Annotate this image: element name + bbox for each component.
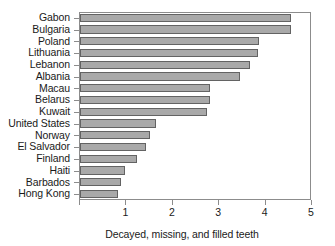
bar-row bbox=[79, 118, 311, 130]
bar-row bbox=[79, 130, 311, 142]
bar bbox=[80, 108, 207, 116]
bar bbox=[80, 72, 240, 80]
bar bbox=[80, 37, 259, 45]
bar-row bbox=[79, 153, 311, 165]
y-axis-label-haiti: Haiti bbox=[49, 165, 70, 177]
bar bbox=[80, 96, 210, 104]
bar-series-container bbox=[79, 12, 311, 200]
bar bbox=[80, 61, 250, 69]
x-axis-tick-label: 4 bbox=[255, 206, 275, 218]
bar-row bbox=[79, 106, 311, 118]
bar-row bbox=[79, 71, 311, 83]
x-axis-tick bbox=[218, 200, 219, 205]
y-axis-label-hong-kong: Hong Kong bbox=[18, 188, 70, 200]
bar bbox=[80, 84, 210, 92]
bar bbox=[80, 25, 291, 33]
x-axis-origin-tick bbox=[79, 200, 80, 205]
y-axis-label-gabon: Gabon bbox=[39, 12, 70, 24]
bar-row bbox=[79, 177, 311, 189]
x-axis-title-text: Decayed, missing, and filled teeth bbox=[105, 228, 259, 240]
bar-row bbox=[79, 165, 311, 177]
bar-row bbox=[79, 24, 311, 36]
bar bbox=[80, 190, 118, 198]
bar-row bbox=[79, 59, 311, 71]
y-axis-label-bulgaria: Bulgaria bbox=[32, 24, 70, 36]
x-axis-title: Decayed, missing, and filled teeth bbox=[0, 228, 335, 240]
bar-row bbox=[79, 188, 311, 200]
x-axis-tick-label: 2 bbox=[162, 206, 182, 218]
bar bbox=[80, 143, 146, 151]
bar bbox=[80, 155, 137, 163]
bar-row bbox=[79, 83, 311, 95]
x-axis-tick bbox=[125, 200, 126, 205]
bar bbox=[80, 49, 258, 57]
x-axis-tick bbox=[311, 200, 312, 205]
x-axis-tick-label: 3 bbox=[208, 206, 228, 218]
bar-row bbox=[79, 12, 311, 24]
y-axis-label-albania: Albania bbox=[36, 71, 70, 83]
bar bbox=[80, 14, 291, 22]
y-axis-label-united-states: United States bbox=[8, 118, 70, 130]
x-axis-tick bbox=[172, 200, 173, 205]
bar bbox=[80, 178, 121, 186]
y-axis-label-finland: Finland bbox=[36, 153, 70, 165]
bar-chart-figure: GabonBulgariaPolandLithuaniaLebanonAlban… bbox=[0, 0, 335, 246]
y-axis-label-lebanon: Lebanon bbox=[30, 59, 70, 71]
y-axis-label-kuwait: Kuwait bbox=[39, 106, 70, 118]
bar-row bbox=[79, 36, 311, 48]
x-axis-tick bbox=[265, 200, 266, 205]
bar bbox=[80, 119, 156, 127]
x-axis-tick-label: 5 bbox=[301, 206, 321, 218]
bar-row bbox=[79, 141, 311, 153]
bar bbox=[80, 131, 150, 139]
bar bbox=[80, 166, 125, 174]
bar-row bbox=[79, 47, 311, 59]
bar-row bbox=[79, 94, 311, 106]
y-axis-category-labels: GabonBulgariaPolandLithuaniaLebanonAlban… bbox=[0, 12, 79, 200]
x-axis-tick-label: 1 bbox=[115, 206, 135, 218]
